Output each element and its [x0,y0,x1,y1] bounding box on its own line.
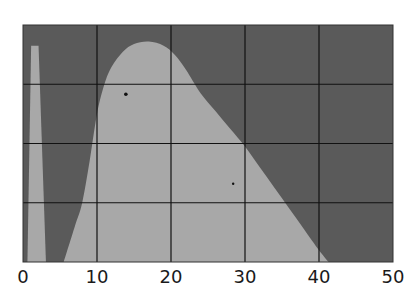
data-point-marker [232,183,234,185]
x-tick-label: 40 [308,266,331,287]
x-tick-label: 50 [382,266,405,287]
x-tick-label: 0 [17,266,28,287]
x-tick-label: 10 [86,266,109,287]
data-point-marker [124,93,128,97]
x-tick-label: 30 [234,266,257,287]
x-axis-tick-labels: 01020304050 [17,266,404,287]
chart: 01020304050 [0,0,415,295]
x-tick-label: 20 [160,266,183,287]
